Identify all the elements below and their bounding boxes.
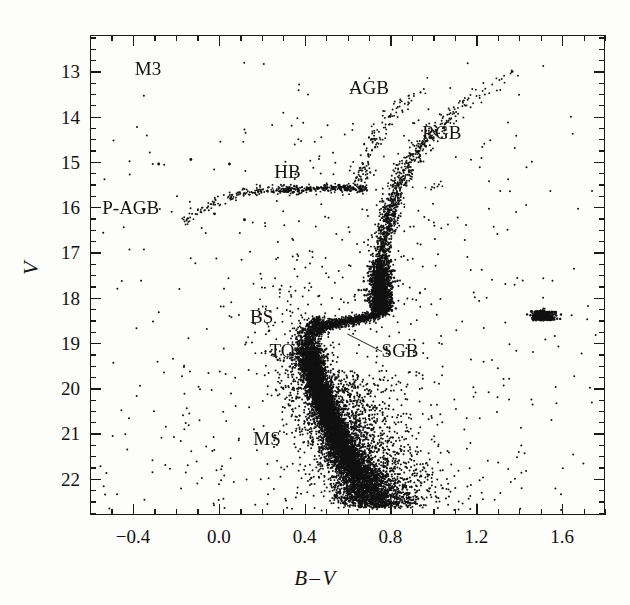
annotation-hb: HB [274, 161, 300, 180]
y-tick-label-22: 22 [50, 469, 80, 488]
y-minor-tick-18.25 [90, 309, 96, 310]
y-minor-tick-22.75 [90, 513, 96, 514]
x-axis-title-minus: – [308, 566, 323, 590]
y-minor-tick-right-13.25 [599, 83, 605, 84]
y-tick-label-16: 16 [50, 198, 80, 217]
y-minor-tick-right-13.5 [599, 94, 605, 95]
y-minor-tick-21.75 [90, 467, 96, 468]
x-tick-label-0.4: 0.4 [293, 527, 317, 546]
y-axis-title: V [18, 262, 44, 275]
y-major-tick-right-18 [594, 298, 605, 299]
y-major-tick-right-17 [594, 252, 605, 253]
x-minor-tick--0.1 [197, 509, 198, 515]
x-minor-tick-top-0.2 [262, 35, 263, 41]
y-minor-tick-15.25 [90, 173, 96, 174]
x-minor-tick-1.5 [541, 509, 542, 515]
x-minor-tick-1.8 [605, 509, 606, 515]
y-tick-label-20: 20 [50, 379, 80, 398]
annotation-to: TO [270, 340, 295, 359]
x-minor-tick-top--0.3 [154, 35, 155, 41]
x-axis-title-v: V [323, 566, 336, 590]
y-minor-tick-21.25 [90, 445, 96, 446]
y-major-tick-21 [90, 433, 101, 434]
y-minor-tick-right-12.5 [599, 49, 605, 50]
y-minor-tick-right-22.25 [599, 490, 605, 491]
x-minor-tick-top-1.7 [584, 35, 585, 41]
x-minor-tick-0.3 [283, 509, 284, 515]
x-minor-tick-1 [433, 509, 434, 515]
x-minor-tick-top--0.1 [197, 35, 198, 41]
x-major-tick-top-0.8 [390, 35, 391, 46]
y-minor-tick-right-18.75 [599, 332, 605, 333]
y-minor-tick-16.75 [90, 241, 96, 242]
y-minor-tick-12.75 [90, 60, 96, 61]
y-minor-tick-13.75 [90, 105, 96, 106]
y-major-tick-right-15 [594, 162, 605, 163]
y-minor-tick-17.5 [90, 275, 96, 276]
y-minor-tick-14.75 [90, 150, 96, 151]
y-major-tick-13 [90, 71, 101, 72]
y-major-tick-16 [90, 207, 101, 208]
y-major-tick-right-22 [594, 479, 605, 480]
y-tick-label-17: 17 [50, 243, 80, 262]
annotation-sgb: SGB [382, 340, 419, 359]
annotation-rgb: RGB [422, 123, 461, 142]
y-minor-tick-22.5 [90, 501, 96, 502]
x-minor-tick-0.7 [369, 509, 370, 515]
x-minor-tick-top--0.2 [176, 35, 177, 41]
x-minor-tick-0.9 [412, 509, 413, 515]
y-tick-label-18: 18 [50, 288, 80, 307]
y-minor-tick-right-14.25 [599, 128, 605, 129]
y-minor-tick-right-12.75 [599, 60, 605, 61]
y-major-tick-14 [90, 117, 101, 118]
y-major-tick-right-20 [594, 388, 605, 389]
y-tick-label-13: 13 [50, 62, 80, 81]
y-minor-tick-22.25 [90, 490, 96, 491]
y-minor-tick-right-14.5 [599, 139, 605, 140]
x-minor-tick-0.5 [326, 509, 327, 515]
x-minor-tick-top-1.4 [519, 35, 520, 41]
y-minor-tick-right-17.75 [599, 286, 605, 287]
annotation-bs: BS [250, 306, 273, 325]
y-major-tick-15 [90, 162, 101, 163]
y-minor-tick-right-14.75 [599, 150, 605, 151]
x-major-tick-top--0.4 [133, 35, 134, 46]
y-minor-tick-right-15.5 [599, 184, 605, 185]
y-minor-tick-right-17.25 [599, 264, 605, 265]
x-minor-tick-top-1.5 [541, 35, 542, 41]
y-minor-tick-18.75 [90, 332, 96, 333]
cluster-name-label: M3 [135, 58, 161, 80]
x-major-tick-top-1.2 [476, 35, 477, 46]
x-minor-tick-top-0.3 [283, 35, 284, 41]
x-minor-tick-top-0.7 [369, 35, 370, 41]
y-minor-tick-right-18.5 [599, 320, 605, 321]
y-minor-tick-right-21.25 [599, 445, 605, 446]
y-minor-tick-21.5 [90, 456, 96, 457]
y-minor-tick-right-16.5 [599, 230, 605, 231]
x-major-tick-top-1.6 [562, 35, 563, 46]
x-minor-tick-0.1 [240, 509, 241, 515]
x-major-tick-0 [219, 504, 220, 515]
y-minor-tick-right-13.75 [599, 105, 605, 106]
y-minor-tick-right-19.25 [599, 354, 605, 355]
x-minor-tick-top-0.1 [240, 35, 241, 41]
x-minor-tick-top-0.6 [348, 35, 349, 41]
y-minor-tick-right-16.75 [599, 241, 605, 242]
y-minor-tick-right-21.75 [599, 467, 605, 468]
y-minor-tick-right-16.25 [599, 218, 605, 219]
x-axis-title-b: B [294, 566, 307, 590]
y-minor-tick-14.25 [90, 128, 96, 129]
x-minor-tick-top-0.5 [326, 35, 327, 41]
y-minor-tick-right-19.5 [599, 366, 605, 367]
y-minor-tick-right-22.75 [599, 513, 605, 514]
x-tick-label-0.8: 0.8 [379, 527, 403, 546]
x-tick-label--0.4: −0.4 [116, 527, 150, 546]
y-minor-tick-right-20.25 [599, 400, 605, 401]
x-minor-tick--0.5 [111, 509, 112, 515]
y-major-tick-18 [90, 298, 101, 299]
y-tick-label-21: 21 [50, 424, 80, 443]
y-minor-tick-13.25 [90, 83, 96, 84]
y-minor-tick-15.5 [90, 184, 96, 185]
y-minor-tick-right-19.75 [599, 377, 605, 378]
x-minor-tick--0.3 [154, 509, 155, 515]
